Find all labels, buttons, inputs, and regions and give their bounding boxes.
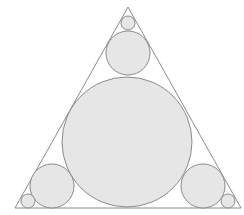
circle-bottom-left-small (21, 194, 35, 208)
triangle-circles-diagram (0, 0, 244, 215)
circle-incircle (62, 77, 192, 207)
circle-bottom-left-medium (30, 164, 74, 208)
circle-top-medium (106, 31, 150, 75)
circle-top-small (121, 16, 135, 30)
circles-group (21, 16, 235, 208)
circle-bottom-right-medium (181, 164, 225, 208)
circle-bottom-right-small (221, 194, 235, 208)
